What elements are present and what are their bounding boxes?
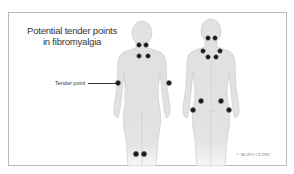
tender-point-hip-left [198, 98, 205, 105]
tender-point-elbow-right [166, 80, 173, 87]
tender-point-buttock-left [190, 107, 197, 114]
tender-point-neck-right [212, 35, 218, 41]
tender-point-neck-left [205, 35, 211, 41]
tender-point-upper-back-right [213, 54, 219, 60]
back-figure [183, 19, 239, 166]
tender-point-callout-label: Tender point [55, 80, 85, 86]
tender-point-neck-right [143, 42, 149, 48]
tender-point-shoulder-right [217, 48, 223, 54]
body-figures [0, 0, 294, 174]
tender-point-shoulder-left [200, 48, 206, 54]
tender-point-neck-left [136, 42, 142, 48]
callout-leader-line [88, 83, 116, 84]
tender-point-upper-back-left [205, 54, 211, 60]
tender-point-hip-right [218, 98, 225, 105]
tender-point-buttock-right [226, 107, 233, 114]
tender-point-chest-right [145, 53, 151, 59]
tender-point-knee-right [141, 151, 148, 158]
tender-point-knee-left [133, 151, 140, 158]
tender-point-chest-left [136, 53, 142, 59]
front-figure [114, 21, 170, 166]
copyright-notice: © MAYO CLINIC [236, 152, 271, 157]
